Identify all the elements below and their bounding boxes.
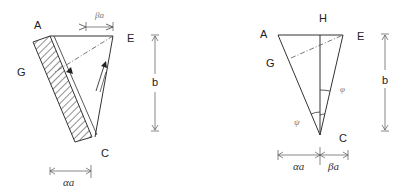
label-alpha-a: αa bbox=[63, 176, 75, 188]
label-phi: φ bbox=[340, 84, 345, 94]
label-A: A bbox=[260, 28, 268, 40]
arrow-head-wall bbox=[66, 67, 73, 74]
label-alpha-a: αa bbox=[293, 160, 305, 172]
label-beta-a: βa bbox=[94, 10, 104, 20]
left-figure: A E G C b βa αa bbox=[17, 10, 159, 188]
label-b: b bbox=[382, 74, 388, 86]
label-A: A bbox=[34, 19, 42, 31]
label-C: C bbox=[101, 147, 109, 159]
label-beta-a: βa bbox=[327, 160, 339, 172]
arrow-head-force bbox=[101, 61, 107, 68]
dashed-line-G-E bbox=[291, 35, 343, 58]
label-C: C bbox=[339, 132, 347, 144]
label-b: b bbox=[152, 76, 158, 88]
right-figure: A H E G C b φ ψ αa βa bbox=[260, 12, 389, 172]
label-G: G bbox=[17, 66, 26, 78]
label-G: G bbox=[266, 57, 275, 69]
hatched-wall bbox=[33, 36, 92, 142]
diagram-canvas: A E G C b βa αa bbox=[0, 0, 406, 191]
label-E: E bbox=[357, 30, 364, 42]
angle-arc-psi bbox=[311, 112, 320, 114]
label-psi: ψ bbox=[294, 117, 300, 127]
force-arrow-line-1 bbox=[96, 66, 104, 91]
label-E: E bbox=[127, 32, 134, 44]
angle-arc-phi-outer bbox=[320, 90, 330, 91]
label-H: H bbox=[319, 12, 327, 24]
